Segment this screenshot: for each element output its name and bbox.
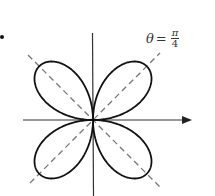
polar-rose-figure xyxy=(0,0,215,196)
fraction: π 4 xyxy=(171,28,180,49)
dashed-line-pi-over-4 xyxy=(30,53,160,183)
equals-sign: = xyxy=(156,31,167,46)
fraction-denominator: 4 xyxy=(172,39,178,49)
theta-symbol: θ xyxy=(146,31,154,46)
x-axis-arrowhead-icon xyxy=(182,116,192,124)
dashed-line-3pi-over-4 xyxy=(28,55,161,188)
theta-label: θ = π 4 xyxy=(146,28,179,49)
